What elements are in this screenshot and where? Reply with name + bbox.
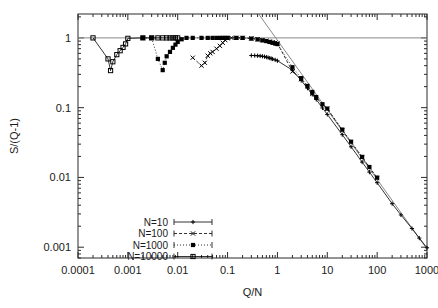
y-tick-labels: 10.10.010.001	[43, 32, 71, 253]
data-point	[314, 95, 318, 99]
data-point	[349, 140, 353, 144]
data-point	[191, 220, 195, 224]
data-point	[199, 36, 203, 40]
data-point	[206, 36, 210, 40]
data-point	[165, 54, 169, 58]
x-tick-label: 1000	[415, 264, 438, 276]
figure-container: 0.00010.0010.010.1110100100010.10.010.00…	[0, 0, 438, 308]
data-point	[225, 36, 229, 40]
x-axis-title: Q/N	[243, 286, 263, 298]
reference-lines	[78, 14, 427, 249]
y-axis-ticks	[78, 17, 427, 258]
data-point	[290, 65, 294, 69]
data-point	[275, 59, 279, 63]
x-tick-label: 1	[274, 264, 280, 276]
y-axis-title: S/(Q-1)	[8, 118, 20, 154]
data-point	[320, 102, 324, 106]
data-point	[234, 36, 238, 40]
series-line	[143, 38, 377, 178]
data-point	[299, 76, 303, 80]
data-point	[184, 36, 188, 40]
x-tick-labels: 0.00010.0010.010.11101001000	[61, 264, 438, 276]
data-point	[273, 58, 277, 62]
data-point	[340, 127, 344, 131]
data-point	[310, 90, 314, 94]
data-point	[163, 61, 167, 65]
data-point	[191, 36, 195, 40]
legend-label-N10: N=10	[144, 217, 169, 228]
data-point	[260, 38, 264, 42]
x-tick-label: 100	[368, 264, 386, 276]
data-point	[325, 106, 329, 110]
data-point	[191, 243, 195, 247]
x-tick-label: 0.01	[167, 264, 188, 276]
data-point	[168, 50, 172, 54]
data-point	[360, 155, 364, 159]
log-log-scatter-plot: 0.00010.0010.010.1110100100010.10.010.00…	[0, 0, 438, 308]
y-tick-label: 0.001	[43, 241, 71, 253]
y-tick-label: 0.01	[50, 171, 71, 183]
data-point	[203, 61, 207, 65]
data-point	[305, 84, 309, 88]
plot-frame	[78, 14, 427, 258]
x-tick-label: 10	[321, 264, 333, 276]
data-point	[240, 36, 244, 40]
data-point	[249, 37, 253, 41]
x-axis-ticks	[78, 14, 427, 258]
data-point	[375, 175, 379, 179]
y-tick-label: 1	[65, 32, 71, 44]
data-point	[275, 42, 279, 46]
data-point	[210, 36, 214, 40]
x-tick-label: 0.001	[114, 264, 142, 276]
data-point	[367, 165, 371, 169]
data-point	[156, 57, 160, 61]
legend-label-N10000: N=10000	[127, 251, 168, 262]
legend-label-N100: N=100	[138, 228, 168, 239]
axes-frame	[78, 14, 427, 258]
data-point	[191, 56, 195, 60]
x-tick-label: 0.1	[220, 264, 235, 276]
series-N10	[249, 53, 429, 250]
series-line	[193, 38, 377, 178]
y-tick-label: 0.1	[56, 102, 71, 114]
series-N100	[191, 36, 380, 180]
x-tick-label: 0.0001	[61, 264, 95, 276]
data-point	[161, 68, 165, 72]
data-point	[255, 37, 259, 41]
legend-label-N1000: N=1000	[133, 240, 169, 251]
series-line	[251, 55, 427, 247]
